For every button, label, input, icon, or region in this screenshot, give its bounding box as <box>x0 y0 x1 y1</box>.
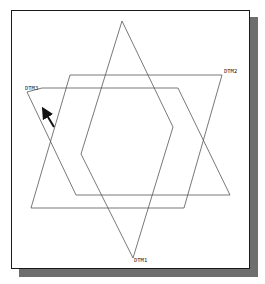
label-dtm3: DTM3 <box>25 85 38 91</box>
direction-arrow-icon <box>45 112 54 127</box>
datum-plane-dtm1[interactable] <box>81 21 173 258</box>
datum-planes-diagram: DTM3 DTM2 DTM1 <box>0 0 265 284</box>
datum-plane-dtm2[interactable] <box>31 75 222 208</box>
label-dtm1: DTM1 <box>134 257 147 263</box>
label-dtm2: DTM2 <box>224 68 237 74</box>
datum-plane-dtm3[interactable] <box>27 88 230 195</box>
